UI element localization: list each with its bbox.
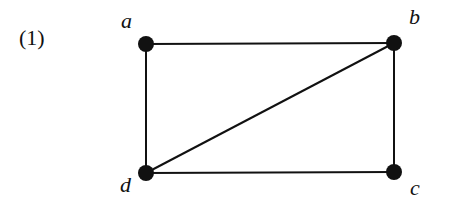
node-a bbox=[138, 36, 154, 52]
node-d bbox=[138, 165, 154, 181]
node-c bbox=[386, 164, 402, 180]
node-label-a: a bbox=[121, 8, 132, 34]
node-label-c: c bbox=[410, 175, 420, 201]
edge-c-d bbox=[146, 172, 394, 173]
node-b bbox=[386, 35, 402, 51]
node-label-d: d bbox=[120, 172, 131, 198]
edge-d-b bbox=[146, 43, 394, 173]
graph-diagram bbox=[0, 0, 451, 208]
edges bbox=[146, 43, 394, 173]
node-label-b: b bbox=[409, 4, 420, 30]
edge-a-b bbox=[146, 43, 394, 44]
figure-number: (1) bbox=[19, 25, 45, 51]
